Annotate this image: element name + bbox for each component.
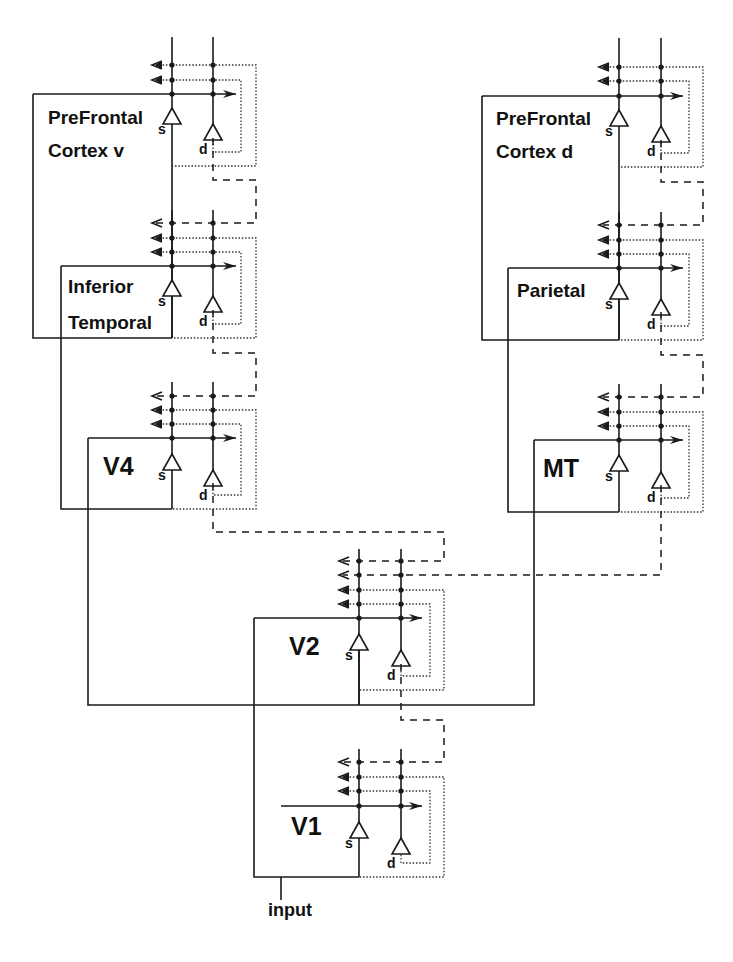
junction-dot (169, 407, 174, 412)
junction-dot (398, 774, 403, 779)
junction-dot (658, 64, 663, 69)
s-label: s (605, 296, 613, 312)
s-label: s (605, 468, 613, 484)
junction-dot (356, 615, 361, 620)
junction-dot (210, 77, 215, 82)
junction-dot (616, 78, 621, 83)
module-label: Cortex d (496, 141, 573, 162)
junction-dot (169, 421, 174, 426)
junction-dot (658, 78, 663, 83)
d-label: d (387, 855, 396, 871)
module-label: V4 (103, 452, 134, 480)
d-label: d (647, 316, 656, 332)
junction-dot (398, 587, 403, 592)
junction-dot (210, 235, 215, 240)
d-label: d (387, 667, 396, 683)
junction-dot (356, 601, 361, 606)
descending-connections (152, 138, 703, 766)
junction-dot (210, 421, 215, 426)
s-label: s (345, 647, 353, 663)
module-label: PreFrontal (496, 108, 591, 129)
module-label: Temporal (68, 312, 152, 333)
junction-dot (169, 62, 174, 67)
junction-dot (169, 91, 174, 96)
junction-dot (398, 788, 403, 793)
junction-dot (616, 64, 621, 69)
it-to-pfcv-enclosure (33, 94, 172, 338)
junction-dot (210, 435, 215, 440)
d-label: d (199, 313, 208, 329)
junction-dot (210, 263, 215, 268)
junction-dot (169, 77, 174, 82)
module-label: Parietal (517, 280, 586, 301)
module-v1: V1sd (281, 749, 444, 877)
module-label: V1 (291, 812, 322, 840)
input-label: input (268, 900, 312, 920)
junction-dot (169, 263, 174, 268)
v2-to-v4-mt-enclosure (88, 438, 534, 705)
junction-dot (658, 237, 663, 242)
module-pfcd: PreFrontalCortex dsd (482, 38, 703, 340)
junction-dot (616, 409, 621, 414)
descending-connection-mt (343, 485, 661, 575)
module-parietal: Parietalsd (508, 212, 703, 340)
junction-dot (658, 423, 663, 428)
junction-dot (210, 249, 215, 254)
d-unit-triangle-icon (204, 124, 222, 140)
junction-dot (356, 774, 361, 779)
junction-dot (616, 423, 621, 428)
module-pfcv: PreFrontalCortex vsd (33, 37, 256, 338)
junction-dot (658, 265, 663, 270)
junction-dot (616, 93, 621, 98)
descending-connection-v4 (213, 483, 444, 561)
module-label: Inferior (68, 276, 134, 297)
junction-dot (616, 237, 621, 242)
junction-dot (356, 587, 361, 592)
junction-dot (356, 803, 361, 808)
d-unit-triangle-icon (392, 838, 410, 854)
modules: PreFrontalCortex vsdInferiorTemporalsdV4… (33, 37, 703, 877)
junction-dot (169, 235, 174, 240)
junction-dot (398, 601, 403, 606)
junction-dot (658, 251, 663, 256)
junction-dot (658, 409, 663, 414)
parietal-to-pfcd-enclosure (482, 96, 619, 340)
junction-dot (169, 435, 174, 440)
junction-dot (356, 788, 361, 793)
junction-dot (658, 93, 663, 98)
s-label: s (605, 123, 613, 139)
d-label: d (199, 141, 208, 157)
d-label: d (647, 143, 656, 159)
s-label: s (158, 467, 166, 483)
junction-dot (616, 251, 621, 256)
module-it: InferiorTemporalsd (61, 210, 256, 338)
d-unit-triangle-icon (652, 126, 670, 142)
junction-dot (616, 437, 621, 442)
s-label: s (158, 293, 166, 309)
s-label: s (158, 121, 166, 137)
module-mt: MTsd (534, 384, 703, 512)
junction-dot (616, 265, 621, 270)
cortical-hierarchy-diagram: PreFrontalCortex vsdInferiorTemporalsdV4… (0, 0, 733, 962)
junction-dot (210, 91, 215, 96)
d-label: d (199, 487, 208, 503)
module-v2: V2sd (254, 549, 444, 705)
module-v4: V4sd (88, 382, 256, 509)
module-label: MT (543, 454, 579, 482)
junction-dot (210, 62, 215, 67)
s-label: s (345, 835, 353, 851)
feedforward-connections (33, 94, 619, 900)
module-label: Cortex v (48, 140, 124, 161)
module-label: PreFrontal (48, 107, 143, 128)
junction-dot (398, 803, 403, 808)
d-unit-triangle-icon (392, 650, 410, 666)
junction-dot (210, 407, 215, 412)
junction-dot (398, 615, 403, 620)
junction-dot (658, 437, 663, 442)
d-label: d (647, 489, 656, 505)
d-unit-triangle-icon (204, 296, 222, 312)
module-label: V2 (289, 632, 320, 660)
junction-dot (169, 249, 174, 254)
